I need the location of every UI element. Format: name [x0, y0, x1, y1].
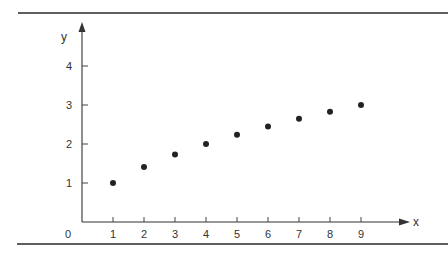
data-point: [296, 116, 302, 122]
x-tick-label: 1: [110, 228, 116, 240]
data-point: [203, 141, 209, 147]
data-point: [172, 152, 178, 158]
y-tick-label: 2: [66, 138, 72, 150]
y-tick-label: 3: [66, 99, 72, 111]
y-tick-label: 4: [66, 60, 72, 72]
x-tick-label: 5: [234, 228, 240, 240]
x-tick-label: 2: [141, 228, 147, 240]
x-axis-label: x: [413, 215, 419, 229]
x-tick-label: 4: [203, 228, 209, 240]
origin-label: 0: [65, 228, 71, 240]
data-point: [110, 180, 116, 186]
scatter-chart: y 1234 x 123456789 0: [0, 0, 448, 256]
data-point: [358, 102, 364, 108]
data-point: [141, 164, 147, 170]
x-axis-ticks: 123456789: [110, 217, 364, 240]
x-tick-label: 9: [358, 228, 364, 240]
data-point: [234, 132, 240, 138]
data-point: [265, 123, 271, 129]
y-axis-label: y: [61, 30, 67, 44]
x-tick-label: 7: [296, 228, 302, 240]
data-point: [327, 109, 333, 115]
y-axis-arrow-icon: [79, 22, 86, 32]
x-tick-label: 3: [172, 228, 178, 240]
y-axis-ticks: 1234: [66, 60, 88, 189]
x-tick-label: 6: [265, 228, 271, 240]
x-tick-label: 8: [327, 228, 333, 240]
data-points: [110, 102, 364, 186]
y-tick-label: 1: [66, 177, 72, 189]
x-axis: x 123456789: [82, 215, 419, 240]
x-axis-arrow-icon: [399, 219, 410, 226]
y-axis: y 1234: [61, 22, 88, 222]
